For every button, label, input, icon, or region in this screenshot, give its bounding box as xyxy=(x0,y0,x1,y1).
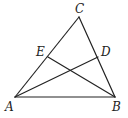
segment-ac xyxy=(15,17,79,97)
segment-be xyxy=(48,57,115,97)
label-point-e: E xyxy=(35,45,45,59)
label-point-d: D xyxy=(100,45,111,59)
label-point-a: A xyxy=(4,100,14,114)
triangle-diagram: A B C D E xyxy=(0,0,128,118)
label-point-c: C xyxy=(75,2,84,16)
segment-ad xyxy=(15,57,98,97)
label-point-b: B xyxy=(111,100,121,114)
